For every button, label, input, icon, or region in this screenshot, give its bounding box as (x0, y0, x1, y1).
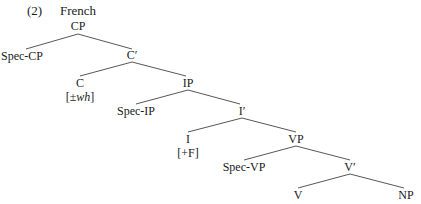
edge-vp-specvp (244, 146, 296, 160)
node-vp: VP (288, 133, 303, 146)
node-np: NP (398, 189, 413, 202)
edge-ip-specip (136, 90, 188, 104)
node-c-bar: C′ (127, 49, 138, 62)
node-spec-vp: Spec-VP (223, 161, 266, 174)
tree-edges (0, 0, 421, 204)
node-c-feature: [±wh] (66, 91, 95, 104)
node-v-bar: V′ (344, 161, 355, 174)
edge-ip-ibar (188, 90, 240, 104)
edge-vp-vbar (296, 146, 350, 160)
node-v: V (294, 189, 303, 202)
edge-cbar-c (80, 62, 132, 76)
edge-cp-speccp (26, 34, 78, 49)
node-cp: CP (71, 20, 86, 33)
edge-ibar-i (188, 118, 242, 132)
node-spec-cp: Spec-CP (1, 50, 43, 63)
edge-cbar-ip (132, 62, 186, 76)
wh-feature-italic: wh (76, 90, 90, 104)
node-spec-ip: Spec-IP (117, 105, 155, 118)
edge-ibar-vp (242, 118, 296, 132)
node-i: I (186, 133, 190, 146)
edge-cp-cbar (78, 34, 132, 49)
node-i-bar: I′ (239, 105, 246, 118)
node-ip: IP (183, 77, 194, 90)
edge-vbar-v (298, 174, 350, 188)
node-i-feature: [+F] (177, 147, 198, 160)
node-c: C (76, 77, 84, 90)
edge-vbar-np (350, 174, 404, 188)
